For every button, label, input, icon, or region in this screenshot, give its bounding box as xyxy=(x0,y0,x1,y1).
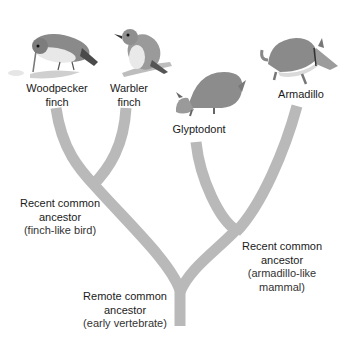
taxon-label-glyptodont: Glyptodont xyxy=(165,123,233,137)
node-label-recent-mammal-ancestor: Recent common ancestor (armadillo-like m… xyxy=(232,240,332,294)
branch-glyptodont xyxy=(196,142,236,230)
warbler-finch-illustration xyxy=(114,29,172,77)
branch-warbler xyxy=(92,108,126,186)
armadillo-illustration xyxy=(262,38,338,84)
taxon-label-armadillo: Armadillo xyxy=(268,88,334,102)
branch-armadillo xyxy=(236,106,297,232)
woodpecker-finch-illustration xyxy=(8,29,98,78)
node-label-remote-ancestor: Remote common ancestor (early vertebrate… xyxy=(78,290,172,331)
node-label-recent-bird-ancestor: Recent common ancestor (finch-like bird) xyxy=(10,197,110,238)
branch-mammal-to-root xyxy=(180,230,236,292)
taxon-label-woodpecker-finch: Woodpecker finch xyxy=(12,82,102,109)
glyptodont-illustration xyxy=(176,72,246,116)
phylogenetic-tree-diagram: Woodpecker finch Warbler finch Glyptodon… xyxy=(0,0,346,341)
taxon-label-warbler-finch: Warbler finch xyxy=(100,82,158,109)
